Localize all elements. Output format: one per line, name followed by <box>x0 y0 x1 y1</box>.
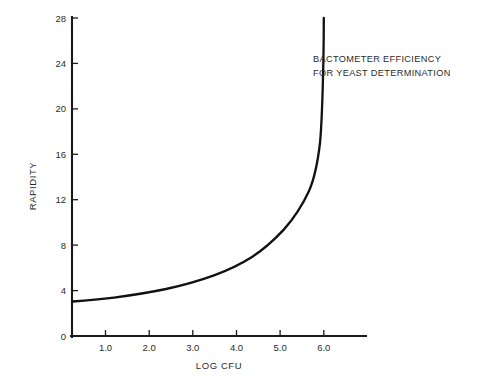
x-tick-label-5: 5.0 <box>273 342 286 353</box>
chart-canvas: 28 24 20 16 12 8 4 0 1.0 2.0 3.0 4.0 5.0… <box>0 0 484 384</box>
y-tick-label-12: 12 <box>55 194 66 205</box>
x-tick-label-6: 6.0 <box>317 342 330 353</box>
y-tick-label-20: 20 <box>55 103 66 114</box>
x-tick-label-2: 2.0 <box>143 342 156 353</box>
chart-page: 28 24 20 16 12 8 4 0 1.0 2.0 3.0 4.0 5.0… <box>0 0 484 384</box>
annotation-line-1: BACTOMETER EFFICIENCY <box>313 54 441 64</box>
y-tick-label-28: 28 <box>55 13 66 24</box>
y-tick-label-8: 8 <box>61 240 66 251</box>
y-tick-label-24: 24 <box>55 58 66 69</box>
y-axis-title: RAPIDITY <box>27 162 38 211</box>
y-tick-label-0: 0 <box>61 331 66 342</box>
y-tick-label-16: 16 <box>55 149 66 160</box>
efficiency-curve <box>73 18 324 302</box>
x-tick-label-3: 3.0 <box>186 342 199 353</box>
x-tick-label-4: 4.0 <box>230 342 243 353</box>
x-axis-title: LOG CFU <box>196 360 242 371</box>
x-tick-label-1: 1.0 <box>99 342 112 353</box>
y-tick-label-4: 4 <box>61 285 66 296</box>
annotation-line-2: FOR YEAST DETERMINATION <box>313 68 451 78</box>
